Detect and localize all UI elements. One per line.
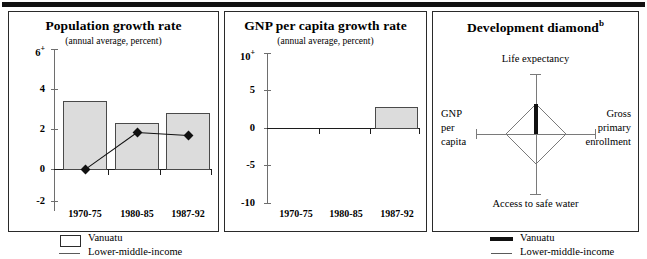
- figure-root: Population growth rate (annual average, …: [0, 0, 647, 259]
- x-tick-3: [211, 170, 212, 175]
- y-label-neg2: -2: [23, 196, 45, 206]
- x-label-gnp-1970-75: 1970-75: [268, 208, 324, 219]
- y-axis-line-population: [54, 49, 55, 211]
- legend-swatch-thick-line-icon: [490, 237, 513, 241]
- y-label-10: 10+: [233, 48, 255, 62]
- panel-population-growth-rate: Population growth rate (annual average, …: [8, 11, 219, 232]
- y-label-5: 5: [233, 85, 255, 95]
- y-tick-5: [264, 90, 271, 91]
- legend-right-label-vanuatu: Vanuatu: [520, 232, 554, 243]
- panel-development-diamond: Development diamondb Life expectancy Acc…: [432, 11, 639, 232]
- x-tick-gnp-3: [419, 129, 420, 134]
- panel-gnp-per-capita-growth-rate: GNP per capita growth rate (annual avera…: [224, 11, 427, 232]
- x-label-1980-85: 1980-85: [109, 208, 165, 219]
- y-tick-neg2: [51, 201, 58, 202]
- legend-left-label-lower-middle-income: Lower-middle-income: [88, 246, 182, 257]
- diamond-vanuatu-series: [534, 104, 538, 134]
- plot-area-gnp: 10+ 5 0 -5 -10 1970-75 1980-85 1987-92: [225, 12, 426, 231]
- y-label-neg10: -10: [233, 198, 255, 208]
- diamond-label-gnp-per-capita: GNP per capita: [441, 107, 466, 149]
- legend-right-label-lower-middle-income: Lower-middle-income: [520, 246, 614, 257]
- legend-swatch-bar-icon: [60, 235, 81, 247]
- x-tick-2: [160, 170, 161, 175]
- y-label-0: 0: [23, 164, 45, 174]
- diamond-label-access-to-safe-water: Access to safe water: [433, 197, 638, 211]
- y-label-0-gnp: 0: [233, 123, 255, 133]
- y-tick-neg5: [264, 165, 271, 166]
- y-tick-2: [51, 129, 58, 130]
- y-tick-4: [51, 89, 58, 90]
- bar-vanuatu-1987-92: [166, 113, 210, 170]
- y-tick-6: [51, 49, 58, 50]
- bar-vanuatu-gnp-1987-92: [375, 107, 418, 129]
- x-label-gnp-1987-92: 1987-92: [369, 208, 425, 219]
- x-tick-1: [108, 170, 109, 175]
- x-label-1970-75: 1970-75: [57, 208, 113, 219]
- y-label-6: 6+: [23, 44, 45, 58]
- y-tick-10: [264, 53, 271, 54]
- diamond-label-gross-primary-enrollment: Gross primary enrollment: [565, 107, 631, 149]
- x-tick-gnp-1: [319, 129, 320, 134]
- legend-left-label-vanuatu: Vanuatu: [88, 232, 122, 243]
- x-tick-gnp-2: [370, 129, 371, 134]
- top-rule: [2, 2, 645, 7]
- y-label-neg5: -5: [233, 160, 255, 170]
- x-label-1987-92: 1987-92: [160, 208, 216, 219]
- legend-swatch-line-icon: [59, 253, 80, 254]
- plot-area-diamond: Life expectancy Access to safe water GNP…: [433, 12, 638, 231]
- plot-area-population: 6+ 4 2 0 -2 1970-75 1980-85: [9, 12, 218, 231]
- y-tick-neg10: [264, 203, 271, 204]
- x-label-gnp-1980-85: 1980-85: [318, 208, 374, 219]
- bar-vanuatu-1970-75: [63, 101, 107, 170]
- diamond-label-life-expectancy: Life expectancy: [433, 52, 638, 66]
- y-label-4: 4: [23, 84, 45, 94]
- legend-swatch-thin-line-icon: [491, 253, 512, 254]
- y-label-2: 2: [23, 124, 45, 134]
